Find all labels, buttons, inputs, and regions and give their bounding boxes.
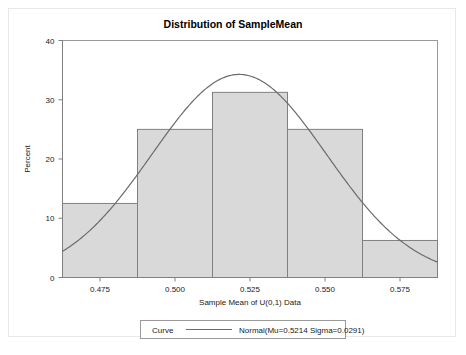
chart-page: Distribution of SampleMean 010203040 0.4… (0, 0, 466, 355)
legend-row-label: Curve (152, 326, 174, 335)
histogram-bars (63, 92, 438, 277)
histogram-bar (213, 92, 288, 277)
y-tick-label: 0 (50, 274, 55, 283)
histogram-bar (138, 129, 213, 277)
x-axis-label: Sample Mean of U(0,1) Data (199, 298, 301, 307)
legend-entry-label: Normal(Mu=0.5214 Sigma=0.0291) (239, 326, 365, 335)
histogram-bar (363, 240, 438, 277)
y-tick-label: 40 (46, 37, 55, 46)
y-tick-label: 30 (46, 96, 55, 105)
chart-legend: Curve Normal(Mu=0.5214 Sigma=0.0291) (141, 321, 365, 339)
x-axis-ticks: 0.4750.5000.5250.5500.575 (90, 278, 411, 294)
x-tick-label: 0.550 (315, 285, 336, 294)
y-axis-ticks: 010203040 (46, 37, 63, 283)
histogram-bar (63, 203, 138, 277)
y-tick-label: 10 (46, 214, 55, 223)
x-tick-label: 0.475 (90, 285, 111, 294)
chart-title: Distribution of SampleMean (164, 18, 303, 30)
x-tick-label: 0.500 (165, 285, 186, 294)
y-tick-label: 20 (46, 155, 55, 164)
distribution-histogram-chart: Distribution of SampleMean 010203040 0.4… (0, 0, 466, 355)
x-tick-label: 0.575 (390, 285, 411, 294)
y-axis-label: Percent (23, 144, 32, 172)
x-tick-label: 0.525 (240, 285, 261, 294)
